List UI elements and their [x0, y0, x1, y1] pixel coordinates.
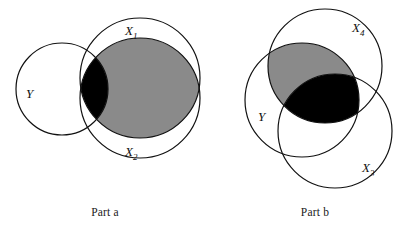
caption-part-a: Part a [0, 206, 210, 218]
venn-figure: Y X1 X2 Part a [0, 0, 420, 234]
venn-diagram-part-a: Y X1 X2 [0, 0, 210, 200]
label-x2-part-a: X2 [124, 144, 138, 162]
black-region-part-b [210, 0, 420, 200]
panel-part-b: Y X4 X3 Part b [210, 0, 420, 234]
label-x3-part-b: X3 [361, 160, 375, 178]
venn-diagram-part-b: Y X4 X3 [210, 0, 420, 200]
label-y-part-a: Y [26, 86, 35, 101]
label-y-part-b: Y [258, 109, 267, 124]
panel-part-a: Y X1 X2 Part a [0, 0, 210, 234]
caption-part-b: Part b [210, 206, 420, 218]
